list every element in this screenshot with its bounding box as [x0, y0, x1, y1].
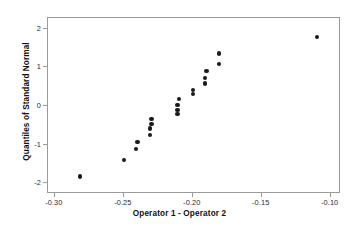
- x-tick-mark: [330, 193, 331, 197]
- y-tick-label: -1: [34, 139, 41, 148]
- y-tick-mark: [43, 105, 47, 106]
- data-point: [203, 76, 207, 80]
- data-point: [217, 51, 221, 55]
- scatter-points-layer: [48, 18, 339, 192]
- y-axis-title: Quantiles of Standard Normal: [22, 12, 31, 192]
- data-point: [175, 108, 179, 112]
- y-tick-label: 0: [37, 101, 41, 110]
- data-point: [217, 62, 221, 66]
- data-point: [135, 140, 139, 144]
- x-tick-mark: [192, 193, 193, 197]
- x-tick-mark: [54, 193, 55, 197]
- data-point: [191, 92, 195, 96]
- y-tick-label: -2: [34, 178, 41, 187]
- x-tick-label: -0.25: [114, 198, 131, 207]
- data-point: [134, 147, 138, 151]
- data-point: [315, 35, 319, 39]
- x-tick-mark: [123, 193, 124, 197]
- y-tick-mark: [43, 182, 47, 183]
- y-tick-label: 2: [37, 23, 41, 32]
- x-tick-label: -0.15: [252, 198, 269, 207]
- x-tick-label: -0.20: [183, 198, 200, 207]
- data-point: [191, 88, 195, 92]
- y-tick-mark: [43, 28, 47, 29]
- data-point: [78, 174, 82, 178]
- x-tick-label: -0.10: [321, 198, 338, 207]
- x-tick-label: -0.30: [45, 198, 62, 207]
- y-tick-label: 1: [37, 62, 41, 71]
- x-tick-mark: [261, 193, 262, 197]
- data-point: [149, 122, 153, 126]
- data-point: [175, 112, 179, 116]
- data-point: [148, 133, 152, 137]
- data-point: [204, 69, 208, 73]
- data-point: [177, 97, 181, 101]
- data-point: [203, 81, 207, 85]
- qq-plot-figure: -0.30-0.25-0.20-0.15-0.10 210-1-2 Operat…: [0, 0, 359, 231]
- y-tick-mark: [43, 66, 47, 67]
- x-axis-title: Operator 1 - Operator 2: [0, 209, 359, 218]
- plot-area: [47, 17, 340, 193]
- data-point: [122, 158, 126, 162]
- data-point: [175, 103, 179, 107]
- y-tick-mark: [43, 144, 47, 145]
- data-point: [149, 117, 153, 121]
- data-point: [148, 126, 152, 130]
